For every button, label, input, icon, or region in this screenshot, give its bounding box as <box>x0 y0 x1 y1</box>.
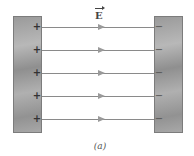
field-line <box>42 96 154 97</box>
plus-sign: + <box>32 91 42 101</box>
field-line <box>42 119 154 120</box>
minus-sign: − <box>154 22 164 32</box>
arrow-right-icon <box>98 47 105 53</box>
field-label: E <box>95 11 103 21</box>
field-line <box>42 50 154 51</box>
figure-caption: (a) <box>90 141 110 151</box>
minus-sign: − <box>154 114 164 124</box>
minus-sign: − <box>154 45 164 55</box>
arrow-right-icon <box>98 116 105 122</box>
plus-sign: + <box>32 45 42 55</box>
field-label-text: E <box>95 10 103 21</box>
minus-sign: − <box>154 91 164 101</box>
field-line <box>42 27 154 28</box>
field-line <box>42 73 154 74</box>
vector-arrow-icon <box>95 8 103 9</box>
arrow-right-icon <box>98 70 105 76</box>
plus-sign: + <box>32 68 42 78</box>
plus-sign: + <box>32 114 42 124</box>
arrow-right-icon <box>98 24 105 30</box>
plus-sign: + <box>32 22 42 32</box>
minus-sign: − <box>154 68 164 78</box>
arrow-right-icon <box>98 93 105 99</box>
